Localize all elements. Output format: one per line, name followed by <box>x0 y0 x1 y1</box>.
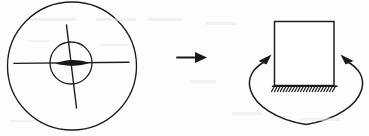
figure-canvas <box>0 0 369 136</box>
technical-diagram <box>0 0 369 136</box>
core-center-dot <box>63 60 81 65</box>
block-rectangle <box>275 22 335 86</box>
